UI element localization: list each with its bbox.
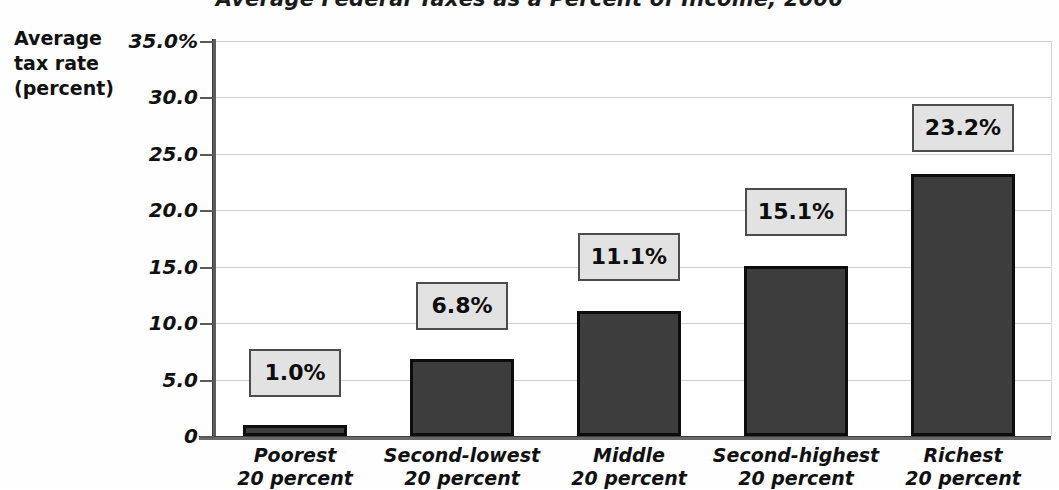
y-tick-label: 0 (78, 424, 198, 448)
y-tick-mark (200, 267, 214, 269)
y-tick-label: 35.0% (78, 29, 198, 53)
bar (577, 311, 681, 436)
y-tick-label: 15.0 (78, 255, 198, 279)
y-tick-mark (200, 41, 214, 43)
bar (744, 266, 848, 436)
y-tick-label: 10.0 (78, 311, 198, 335)
x-category-label: Poorest 20 percent (215, 444, 375, 490)
y-tick-mark (200, 323, 214, 325)
y-tick-label: 5.0 (78, 368, 198, 392)
x-axis-line (199, 436, 1051, 440)
y-axis-tick-labels: 35.0% 30.0 25.0 20.0 15.0 10.0 5.0 0 (68, 0, 198, 488)
x-category-label: Second-lowest 20 percent (372, 444, 552, 490)
y-tick-mark (200, 154, 214, 156)
gridline (215, 97, 1051, 98)
bar (243, 425, 347, 436)
y-tick-label: 25.0 (78, 142, 198, 166)
x-category-label-line-2: 20 percent (372, 467, 552, 490)
bar (911, 174, 1015, 436)
y-tick-mark (200, 380, 214, 382)
x-category-label: Middle 20 percent (549, 444, 709, 490)
y-tick-mark (200, 210, 214, 212)
x-category-label-line-1: Poorest (254, 444, 337, 466)
gridline (215, 41, 1051, 42)
y-tick-mark (200, 436, 214, 438)
x-category-label-line-2: 20 percent (706, 467, 886, 490)
gridline (215, 154, 1051, 155)
x-category-label-line-2: 20 percent (215, 467, 375, 490)
x-category-label-line-2: 20 percent (883, 467, 1043, 490)
x-category-label-line-1: Middle (593, 444, 665, 466)
bar-data-label: 23.2% (912, 104, 1014, 152)
x-category-label-line-2: 20 percent (549, 467, 709, 490)
x-category-label: Richest 20 percent (883, 444, 1043, 490)
x-category-label: Second-highest 20 percent (706, 444, 886, 490)
bar-data-label: 15.1% (745, 188, 847, 236)
x-category-label-line-1: Richest (923, 444, 1002, 466)
bar-data-label: 11.1% (578, 233, 680, 281)
y-tick-mark (200, 97, 214, 99)
bar-data-label: 1.0% (249, 349, 341, 397)
x-category-label-line-1: Second-lowest (384, 444, 540, 466)
bar (410, 359, 514, 436)
y-tick-label: 20.0 (78, 198, 198, 222)
bar-data-label: 6.8% (416, 282, 508, 330)
x-category-label-line-1: Second-highest (713, 444, 879, 466)
y-tick-label: 30.0 (78, 85, 198, 109)
